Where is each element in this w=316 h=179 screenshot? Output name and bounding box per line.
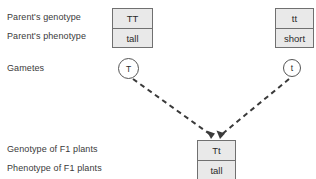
offspring-genotype: Tt [198,141,235,160]
f1-genotype-label: Genotype of F1 plants [7,143,98,155]
gamete-to-offspring-line-left [133,79,211,135]
parent-right-genotype: tt [276,9,313,28]
parent-right-phenotype: short [276,28,313,47]
parent-left-box: TT tall [112,8,153,48]
parent-genotype-label: Parent's genotype [7,11,81,23]
offspring-phenotype: tall [198,160,235,179]
arrowhead-left [207,131,216,140]
gamete-to-offspring-line-right [221,79,289,135]
offspring-box: Tt tall [197,140,236,179]
parent-left-phenotype: tall [113,28,152,47]
gamete-left-circle: T [118,58,139,79]
parent-left-genotype: TT [113,9,152,28]
parent-phenotype-label: Parent's phenotype [7,30,86,42]
f1-phenotype-label: Phenotype of F1 plants [7,162,102,174]
gamete-right-allele: t [291,63,293,73]
parent-right-box: tt short [275,8,314,48]
gamete-left-allele: T [126,64,131,74]
genetic-cross-diagram: Parent's genotype Parent's phenotype Gam… [0,0,316,179]
gametes-label: Gametes [7,62,44,74]
gamete-right-circle: t [283,59,301,77]
arrowhead-right [217,131,226,140]
